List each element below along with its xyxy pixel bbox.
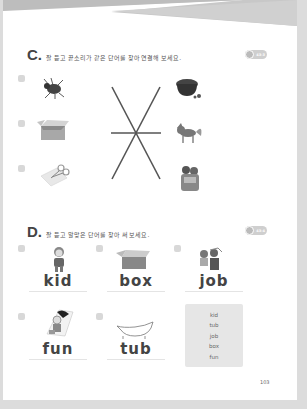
- card-number-4: [18, 313, 25, 320]
- section-c-instruction: 잘 듣고 끝소리가 같은 단어를 찾아 연결해 보세요.: [46, 53, 181, 62]
- answer-card-1[interactable]: kid: [29, 272, 87, 292]
- workbook-page: C. 잘 듣고 끝소리가 같은 단어를 찾아 연결해 보세요. 43-3: [3, 0, 297, 400]
- word-bank-item: fun: [210, 354, 219, 360]
- section-c-letter: C.: [27, 46, 42, 63]
- answer-line: [185, 291, 243, 292]
- item-number-2: [18, 120, 25, 127]
- box-icon: [37, 118, 71, 144]
- pot-icon: [173, 76, 203, 100]
- answer-card-5[interactable]: tub: [107, 340, 165, 360]
- audio-icon: [245, 50, 254, 59]
- bug-icon: [41, 76, 67, 100]
- word-bank-item: kid: [210, 312, 218, 318]
- word-bank-item: box: [209, 343, 219, 349]
- word-bank-item: tub: [209, 322, 218, 328]
- page-number: 103: [260, 379, 270, 385]
- header-banner: [3, 0, 297, 30]
- kid-icon: [50, 246, 68, 274]
- word-bank-item: job: [210, 333, 218, 339]
- matching-lines: [103, 80, 173, 190]
- answer-line: [29, 359, 87, 360]
- answer-line: [29, 291, 87, 292]
- section-d-letter: D.: [27, 223, 42, 240]
- hug-icon: [178, 164, 202, 194]
- answer-line: [107, 291, 165, 292]
- section-d-title: D. 잘 듣고 알맞은 단어를 찾아 써 보세요.: [27, 223, 149, 240]
- answer-card-4[interactable]: fun: [29, 340, 87, 360]
- answer-card-2[interactable]: box: [107, 272, 165, 292]
- answer-word: fun: [29, 340, 87, 358]
- box-icon: [116, 248, 152, 272]
- tub-icon: [115, 320, 155, 340]
- job-icon: [196, 246, 226, 274]
- card-number-1: [18, 245, 25, 252]
- card-number-2: [96, 245, 103, 252]
- cut-icon: [39, 162, 71, 188]
- answer-card-3[interactable]: job: [185, 272, 243, 292]
- section-d-instruction: 잘 듣고 알맞은 단어를 찾아 써 보세요.: [46, 230, 149, 239]
- fun-icon: [43, 308, 75, 338]
- section-d-audio-badge[interactable]: 43-4: [245, 226, 267, 235]
- answer-word: kid: [29, 272, 87, 290]
- answer-word: box: [107, 272, 165, 290]
- audio-icon: [245, 226, 254, 235]
- fox-icon: [175, 120, 205, 146]
- item-number-3: [18, 165, 25, 172]
- word-bank: kid tub job box fun: [185, 304, 243, 367]
- section-c-title: C. 잘 듣고 끝소리가 같은 단어를 찾아 연결해 보세요.: [27, 46, 181, 63]
- answer-word: job: [185, 272, 243, 290]
- item-number-1: [18, 75, 25, 82]
- section-c-audio-badge[interactable]: 43-3: [245, 50, 267, 59]
- answer-word: tub: [107, 340, 165, 358]
- card-number-3: [174, 245, 181, 252]
- card-number-5: [96, 313, 103, 320]
- answer-line: [107, 359, 165, 360]
